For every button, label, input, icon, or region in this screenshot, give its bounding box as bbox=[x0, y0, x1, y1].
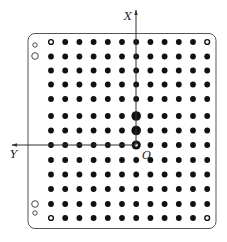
hole bbox=[176, 142, 182, 148]
hole bbox=[77, 68, 83, 74]
hole bbox=[62, 68, 68, 74]
hole bbox=[105, 82, 111, 88]
hole bbox=[176, 96, 182, 102]
hole bbox=[204, 186, 210, 192]
hole bbox=[48, 68, 54, 74]
hole bbox=[119, 186, 125, 192]
hole bbox=[91, 128, 97, 134]
hole bbox=[176, 54, 182, 60]
hole bbox=[162, 113, 168, 119]
hole bbox=[162, 157, 168, 163]
hole bbox=[77, 39, 83, 45]
hole bbox=[105, 68, 111, 74]
hole bbox=[176, 68, 182, 74]
hole bbox=[148, 142, 154, 148]
hole bbox=[105, 157, 111, 163]
hole bbox=[162, 186, 168, 192]
small-hollow-hole-top-left bbox=[33, 43, 37, 47]
hole bbox=[62, 82, 68, 88]
hole bbox=[62, 96, 68, 102]
hole bbox=[176, 172, 182, 178]
hole bbox=[105, 96, 111, 102]
hole bbox=[190, 157, 196, 163]
hole bbox=[190, 39, 196, 45]
hole bbox=[105, 201, 111, 207]
hole bbox=[162, 215, 168, 221]
hole bbox=[48, 201, 54, 207]
hole bbox=[204, 201, 210, 207]
hole bbox=[62, 128, 68, 134]
hole bbox=[77, 157, 83, 163]
hole bbox=[190, 215, 196, 221]
hole bbox=[91, 39, 97, 45]
hole bbox=[176, 128, 182, 134]
hole bbox=[204, 142, 210, 148]
hole bbox=[162, 142, 168, 148]
hole bbox=[48, 157, 54, 163]
hole bbox=[62, 113, 68, 119]
hole bbox=[62, 215, 68, 221]
hole bbox=[105, 215, 111, 221]
hole bbox=[62, 54, 68, 60]
hole bbox=[77, 128, 83, 134]
hole bbox=[190, 68, 196, 74]
hole bbox=[190, 82, 196, 88]
hole bbox=[62, 172, 68, 178]
hole bbox=[190, 201, 196, 207]
hole bbox=[204, 82, 210, 88]
hole bbox=[119, 128, 125, 134]
hole bbox=[119, 215, 125, 221]
hole bbox=[119, 201, 125, 207]
hole bbox=[204, 96, 210, 102]
hole bbox=[77, 172, 83, 178]
hole bbox=[204, 113, 210, 119]
hole bbox=[105, 186, 111, 192]
hole bbox=[105, 172, 111, 178]
hole bbox=[62, 201, 68, 207]
hole bbox=[119, 39, 125, 45]
corner-ring-hole bbox=[49, 216, 54, 221]
hole bbox=[48, 96, 54, 102]
hole bbox=[77, 96, 83, 102]
hole bbox=[162, 39, 168, 45]
hole bbox=[204, 157, 210, 163]
hole bbox=[77, 113, 83, 119]
hole bbox=[148, 54, 154, 60]
hole bbox=[162, 96, 168, 102]
hole bbox=[91, 54, 97, 60]
hole bbox=[91, 96, 97, 102]
hole bbox=[77, 201, 83, 207]
hole bbox=[48, 54, 54, 60]
hole bbox=[91, 172, 97, 178]
hole bbox=[204, 54, 210, 60]
x-axis-label: X bbox=[123, 10, 133, 23]
hole bbox=[148, 113, 154, 119]
origin-label: O bbox=[142, 149, 151, 162]
hole bbox=[119, 157, 125, 163]
hole bbox=[162, 68, 168, 74]
hole bbox=[91, 113, 97, 119]
large-hollow-hole-bottom-left bbox=[32, 201, 39, 208]
corner-ring-hole bbox=[205, 40, 210, 45]
hole bbox=[48, 82, 54, 88]
hole bbox=[162, 82, 168, 88]
hole bbox=[119, 172, 125, 178]
hole bbox=[91, 215, 97, 221]
hole bbox=[148, 82, 154, 88]
hole bbox=[148, 96, 154, 102]
hole bbox=[105, 128, 111, 134]
hole bbox=[148, 68, 154, 74]
hole-grid bbox=[48, 39, 210, 221]
hole bbox=[133, 157, 139, 163]
hole bbox=[133, 172, 139, 178]
hole bbox=[190, 96, 196, 102]
hole bbox=[162, 201, 168, 207]
hole bbox=[148, 201, 154, 207]
hole bbox=[190, 142, 196, 148]
hole bbox=[176, 215, 182, 221]
hole bbox=[62, 157, 68, 163]
corner-ring-hole bbox=[205, 216, 210, 221]
hole bbox=[148, 215, 154, 221]
hole bbox=[77, 54, 83, 60]
hole bbox=[133, 215, 139, 221]
